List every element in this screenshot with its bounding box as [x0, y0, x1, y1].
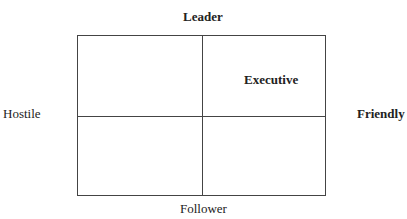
horizontal-divider: [78, 116, 325, 117]
quadrant-grid: Executive: [77, 35, 326, 196]
axis-label-bottom: Follower: [180, 201, 227, 216]
axis-label-right: Friendly: [357, 106, 405, 121]
axis-label-left: Hostile: [3, 106, 41, 121]
quadrant-label-top-right: Executive: [244, 72, 298, 87]
axis-label-top: Leader: [183, 9, 223, 24]
